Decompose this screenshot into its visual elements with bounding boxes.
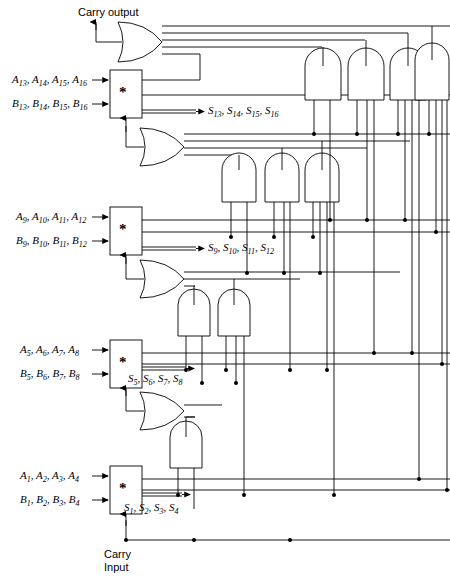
- input-label-a-stage-3: A9, A10, A11, A12: [16, 210, 86, 225]
- output-label-s-stage-2: S5, S6, S7, S8: [128, 372, 183, 387]
- input-label-b-stage-3: B9, B10, B11, B12: [16, 234, 87, 249]
- input-label-b-stage-1: B1, B2, B3, B4: [20, 493, 79, 508]
- input-label-b-stage-2: B5, B6, B7, B8: [20, 367, 79, 382]
- input-label-b-stage-4: B13, B14, B15, B16: [12, 97, 87, 112]
- circuit-diagram-root: Carry output Carry Input A13, A14, A15, …: [0, 0, 450, 584]
- input-label-a-stage-1: A1, A2, A3, A4: [20, 469, 79, 484]
- output-label-s-stage-4: S13, S14, S15, S16: [208, 104, 279, 119]
- input-label-a-stage-4: A13, A14, A15, A16: [12, 73, 87, 88]
- stage-3-star: *: [119, 221, 127, 238]
- or-gate-top: [118, 22, 162, 62]
- carry-input-label-line1: Carry: [104, 548, 131, 561]
- output-label-s-stage-1: S1, S2, S3, S4: [124, 501, 179, 516]
- or-gate-4: [140, 128, 184, 166]
- or-gate-3: [140, 260, 184, 298]
- stage-1-star: *: [119, 480, 127, 497]
- carry-output-label: Carry output: [78, 6, 139, 19]
- wire-layer: [92, 22, 450, 540]
- stage-4-star: *: [119, 84, 127, 101]
- output-label-s-stage-3: S9, S10, S11, S12: [208, 241, 274, 256]
- stage-2-star: *: [119, 354, 127, 371]
- input-label-a-stage-2: A5, A6, A7, A8: [20, 343, 79, 358]
- carry-input-label-line2: Input: [104, 561, 128, 574]
